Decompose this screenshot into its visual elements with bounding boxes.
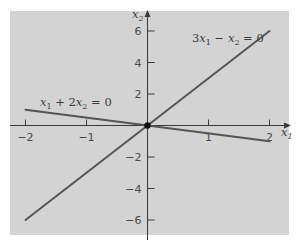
intersection-point: [144, 122, 150, 128]
coordinate-plane-diagram: −2−112 642−2−4−6 3x1 − x2 = 0 x1 + 2x2 =…: [0, 0, 300, 244]
x-tick-label: −2: [17, 131, 33, 144]
y-tick-label: 6: [135, 25, 142, 38]
x-axis-label: x1: [281, 125, 293, 141]
y-tick-label: −6: [125, 214, 141, 227]
equation-label-x1-plus-2x2: x1 + 2x2 = 0: [40, 95, 112, 111]
y-tick-label: −4: [125, 183, 141, 196]
equation-label-3x1-minus-x2: 3x1 − x2 = 0: [192, 31, 264, 47]
y-axis-label: x2: [132, 7, 144, 23]
y-tick-label: −2: [125, 151, 141, 164]
x-tick-label: −1: [78, 131, 94, 144]
y-tick-label: 4: [135, 57, 142, 70]
y-tick-label: 2: [135, 88, 142, 101]
